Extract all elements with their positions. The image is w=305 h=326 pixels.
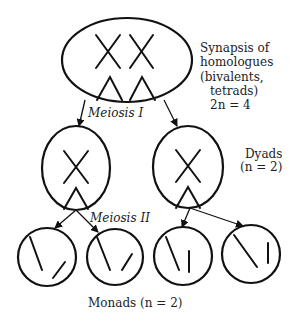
meiosis-diagram: Synapsis of homologues (bivalents, tetra… bbox=[0, 0, 305, 326]
label-line: Synapsis of bbox=[200, 41, 271, 55]
monad-cell-4 bbox=[222, 225, 280, 283]
label-line: 2n = 4 bbox=[210, 98, 251, 112]
label-line: (n = 2) bbox=[240, 160, 282, 174]
dyad-cell-left bbox=[42, 126, 110, 210]
label-line: Dyads bbox=[245, 147, 282, 161]
label-line: (bivalents, bbox=[200, 70, 264, 84]
dyad-cell-right bbox=[153, 126, 223, 208]
monad-cell-1 bbox=[18, 228, 76, 286]
parent-cell bbox=[62, 18, 192, 102]
parent-label: Synapsis of homologues (bivalents, tetra… bbox=[200, 41, 273, 112]
meiosis-2-label: Meiosis II bbox=[89, 211, 150, 225]
label-line: homologues bbox=[200, 55, 273, 69]
monads-label: Monads (n = 2) bbox=[88, 296, 182, 310]
bivalent-x-chromosomes bbox=[96, 35, 153, 68]
label-line: tetrads) bbox=[210, 84, 258, 98]
bivalent-lambda-chromosomes bbox=[97, 77, 155, 100]
dyads-label: Dyads (n = 2) bbox=[240, 147, 282, 174]
monad-cell-3 bbox=[154, 227, 212, 285]
monad-cell-2 bbox=[87, 229, 143, 285]
meiosis-1-label: Meiosis I bbox=[87, 106, 143, 120]
